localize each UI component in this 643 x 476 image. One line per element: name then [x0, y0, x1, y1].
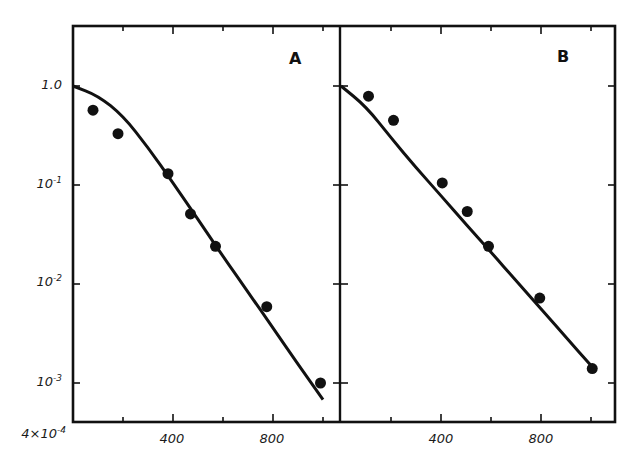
axis-ticks [73, 26, 615, 422]
y-tick-label-1e-2: 10-2 [2, 273, 62, 289]
panel-label-a: A [289, 49, 301, 68]
y-tick-label-1: 1.0 [2, 77, 62, 92]
data-point-a [315, 378, 326, 389]
y-tick-label-1e-1: 10-1 [2, 175, 62, 191]
x-tick-label-a-800: 800 [247, 431, 297, 446]
data-point-a [88, 105, 99, 116]
fit-line-a [73, 86, 323, 400]
data-point-b [483, 241, 494, 252]
data-point-a [163, 168, 174, 179]
data-point-a [210, 241, 221, 252]
panel-label-b: B [557, 47, 569, 66]
y-tick-label-1e-3: 10-3 [2, 373, 62, 389]
y-tick-label-4e-4: 4×10-4 [0, 425, 66, 441]
data-point-b [388, 115, 399, 126]
data-point-b [437, 177, 448, 188]
data-point-b [587, 363, 598, 374]
fit-line-b [341, 86, 591, 366]
x-tick-label-b-800: 800 [516, 431, 566, 446]
data-point-a [261, 301, 272, 312]
data-point-b [462, 206, 473, 217]
data-point-a [113, 128, 124, 139]
x-tick-label-b-400: 400 [416, 431, 466, 446]
data-points [88, 91, 598, 389]
data-point-a [185, 208, 196, 219]
x-tick-label-a-400: 400 [147, 431, 197, 446]
data-point-b [534, 293, 545, 304]
chart-canvas [0, 0, 643, 476]
fit-curves [73, 86, 591, 400]
data-point-b [363, 91, 374, 102]
